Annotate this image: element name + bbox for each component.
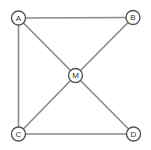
node-a: A <box>12 11 26 25</box>
node-a-label: A <box>16 14 22 23</box>
node-d-label: D <box>131 130 137 139</box>
node-m: M <box>69 69 83 83</box>
edge-d-m <box>76 76 134 135</box>
edge-b-m <box>76 18 134 76</box>
graph-diagram: A B M C D <box>0 0 151 150</box>
edge-a-b <box>19 18 134 19</box>
node-c-label: C <box>16 130 22 139</box>
node-d: D <box>127 127 141 141</box>
node-c: C <box>12 127 26 141</box>
edge-c-m <box>19 76 76 135</box>
edge-a-m <box>19 18 76 76</box>
node-b: B <box>126 11 140 25</box>
node-b-label: B <box>130 13 135 22</box>
node-m-label: M <box>72 71 79 80</box>
